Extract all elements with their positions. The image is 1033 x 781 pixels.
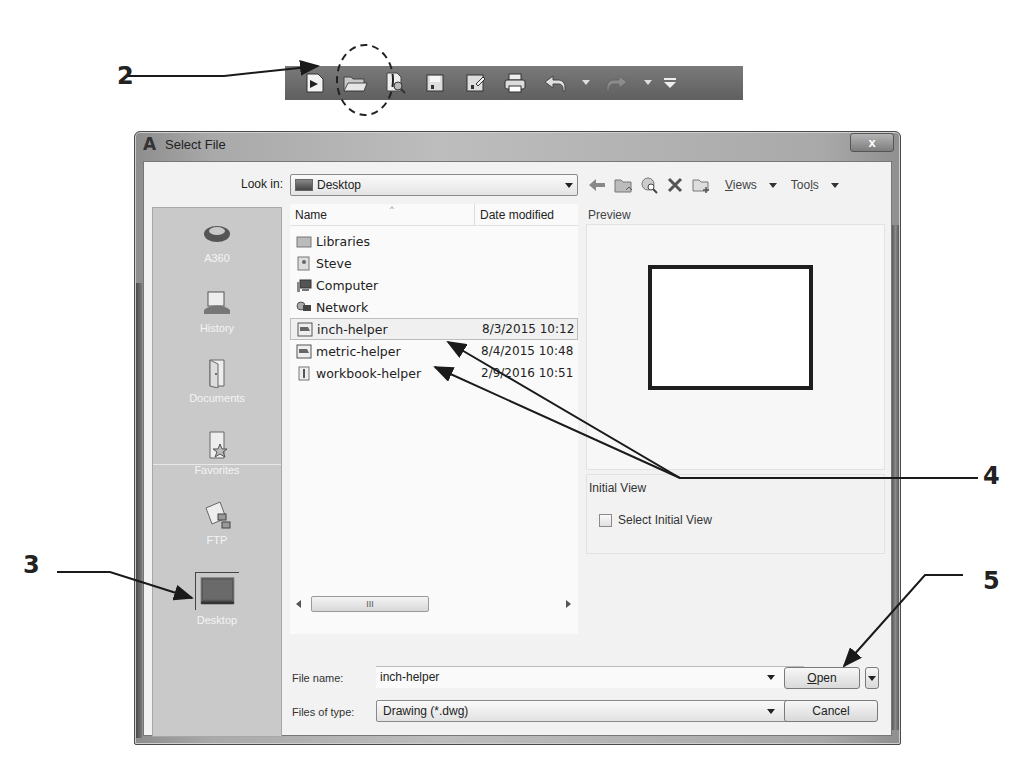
files-of-type-value: Drawing (*.dwg) <box>383 704 468 718</box>
customize-toolbar-button[interactable] <box>659 68 681 98</box>
places-ftp[interactable]: FTP <box>153 500 281 546</box>
file-date: 8/3/2015 10:12 <box>482 322 574 336</box>
file-name: inch-helper <box>317 322 482 337</box>
file-name-input[interactable]: inch-helper <box>376 666 804 688</box>
places-documents[interactable]: Documents <box>153 358 281 404</box>
sort-ascending-icon: ^ <box>390 204 394 213</box>
up-folder-button[interactable] <box>613 176 633 194</box>
date-column-header[interactable]: Date modified <box>475 208 554 222</box>
places-a360[interactable]: A360 <box>153 218 281 264</box>
places-bar: A360 History Documents Favorites FTP D <box>152 207 282 737</box>
file-row[interactable]: workbook-helper 2/9/2016 10:51 <box>290 362 578 384</box>
open-button-toolbar[interactable] <box>335 68 375 98</box>
checkbox-box[interactable] <box>599 514 612 527</box>
undo-dropdown[interactable] <box>575 68 597 98</box>
dwg-file-icon <box>296 344 312 359</box>
open-options-dropdown[interactable] <box>865 667 879 689</box>
scroll-thumb[interactable]: III <box>311 596 429 612</box>
back-button[interactable] <box>587 176 607 194</box>
save-icon <box>424 72 446 94</box>
look-in-value: Desktop <box>317 178 361 192</box>
name-column-header[interactable]: Name <box>290 204 475 225</box>
redo-icon <box>605 73 629 93</box>
file-name: Steve <box>316 256 481 271</box>
callout-4: 4 <box>983 462 1000 490</box>
views-label: Views <box>725 178 757 192</box>
autocad-app-icon: A <box>143 136 159 152</box>
search-web-icon <box>640 176 658 194</box>
scroll-left-icon[interactable] <box>296 600 301 608</box>
file-row[interactable]: Libraries <box>290 230 578 252</box>
favorites-icon <box>200 430 234 460</box>
user-folder-icon <box>296 256 312 271</box>
file-row[interactable]: Computer <box>290 274 578 296</box>
libraries-icon <box>296 234 312 249</box>
places-favorites[interactable]: Favorites <box>153 430 281 476</box>
dwg-file-icon <box>297 322 313 337</box>
file-name-dropdown-arrow[interactable] <box>767 675 775 680</box>
open-button-label: pen <box>817 671 837 685</box>
file-date: 8/4/2015 10:48 <box>481 344 573 358</box>
preview-icon <box>384 71 406 95</box>
look-in-dropdown[interactable]: Desktop <box>290 174 578 196</box>
undo-button[interactable] <box>535 68 575 98</box>
scroll-right-icon[interactable] <box>566 600 571 608</box>
new-button[interactable] <box>295 68 335 98</box>
places-label: Favorites <box>194 464 239 476</box>
places-label: FTP <box>207 534 228 546</box>
file-row[interactable]: Steve <box>290 252 578 274</box>
window-edge-right <box>892 225 899 730</box>
select-file-dialog: A Select File x Look in: Desktop <box>134 131 901 745</box>
preview-pane <box>586 224 885 470</box>
select-initial-view-label: Select Initial View <box>618 513 712 527</box>
files-of-type-arrow[interactable] <box>767 709 775 714</box>
file-name: Network <box>316 300 481 315</box>
callout-5: 5 <box>983 567 1000 595</box>
file-name-label: File name: <box>292 672 343 684</box>
network-icon <box>296 300 312 315</box>
horizontal-scrollbar[interactable]: III <box>290 594 578 614</box>
ftp-icon <box>200 500 234 530</box>
dwg-file-icon <box>296 366 312 381</box>
initial-view-group: Initial View Select Initial View <box>586 474 885 554</box>
file-name: metric-helper <box>316 344 481 359</box>
look-in-label: Look in: <box>229 177 283 191</box>
file-date: 2/9/2016 10:51 <box>481 366 573 380</box>
open-button[interactable]: Open <box>784 667 860 689</box>
file-list-header: Name ^ Date modified <box>290 204 578 226</box>
chevron-down-icon <box>644 80 652 86</box>
computer-icon <box>296 278 312 293</box>
tools-menu[interactable]: Tools <box>791 178 839 192</box>
delete-x-icon <box>667 177 683 193</box>
print-icon <box>503 72 527 94</box>
search-web-button[interactable] <box>639 176 659 194</box>
delete-button[interactable] <box>665 176 685 194</box>
views-menu[interactable]: Views <box>725 178 777 192</box>
desktop-icon <box>295 179 313 191</box>
callout-3: 3 <box>23 551 40 579</box>
files-of-type-dropdown[interactable]: Drawing (*.dwg) <box>376 700 804 722</box>
file-row[interactable]: Network <box>290 296 578 318</box>
documents-icon <box>200 358 234 388</box>
customize-icon <box>664 77 676 89</box>
chevron-down-icon <box>868 676 876 681</box>
places-desktop[interactable]: Desktop <box>153 572 281 626</box>
redo-button[interactable] <box>597 68 637 98</box>
places-history[interactable]: History <box>153 288 281 334</box>
close-button[interactable]: x <box>850 133 894 152</box>
dialog-title: Select File <box>165 137 226 152</box>
cancel-button[interactable]: Cancel <box>784 700 878 722</box>
redo-dropdown[interactable] <box>637 68 659 98</box>
file-row[interactable]: metric-helper 8/4/2015 10:48 <box>290 340 578 362</box>
drawing-preview-thumbnail <box>648 265 813 390</box>
tools-label: Tools <box>791 178 819 192</box>
new-folder-button[interactable] <box>691 176 711 194</box>
plot-button[interactable] <box>495 68 535 98</box>
save-as-button[interactable] <box>455 68 495 98</box>
title-bar[interactable]: A Select File x <box>135 132 900 156</box>
save-button-toolbar[interactable] <box>415 68 455 98</box>
select-initial-view-checkbox[interactable]: Select Initial View <box>599 513 712 527</box>
open-button-mnemonic: O <box>807 671 816 685</box>
file-row-selected[interactable]: inch-helper 8/3/2015 10:12 <box>290 318 578 340</box>
sheet-set-button[interactable] <box>375 68 415 98</box>
